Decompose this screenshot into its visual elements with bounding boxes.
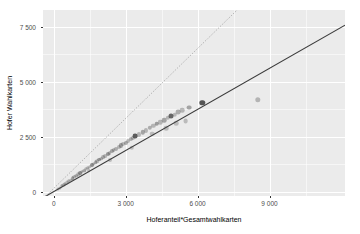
x-tick-mark [126, 196, 127, 198]
chart-root: 02 5005 0007 500 03 0006 0009 000 Hofera… [0, 0, 360, 234]
x-tick-label: 0 [52, 200, 56, 207]
y-axis-title: Hofer Wahlkarten [6, 76, 13, 130]
y-tick-label: 2 500 [0, 133, 36, 140]
x-tick-label: 6 000 [189, 200, 205, 207]
x-tick-label: 9 000 [261, 200, 277, 207]
data-point [108, 158, 112, 162]
y-tick-mark [41, 82, 43, 83]
x-axis-title: Hoferanteil*Gesamtwahlkarten [147, 216, 242, 223]
x-tick-mark [54, 196, 55, 198]
y-tick-mark [41, 27, 43, 28]
x-tick-label: 3 000 [118, 200, 134, 207]
x-tick-mark [198, 196, 199, 198]
data-point [150, 132, 155, 137]
data-point [87, 168, 91, 172]
y-tick-mark [41, 192, 43, 193]
x-tick-mark [270, 196, 271, 198]
data-point [174, 121, 179, 126]
data-point [180, 108, 185, 113]
data-point [187, 105, 192, 110]
y-tick-label: 7 500 [0, 23, 36, 30]
y-tick-mark [41, 137, 43, 138]
y-tick-label: 0 [0, 188, 36, 195]
data-point [183, 119, 188, 124]
plot-panel [43, 10, 345, 196]
data-point [164, 126, 169, 131]
